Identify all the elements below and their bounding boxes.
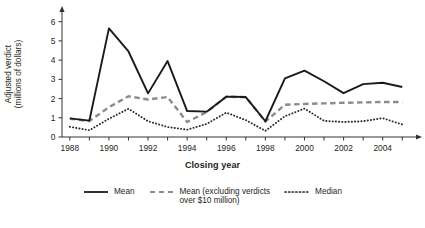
legend-label-median: Median [315, 186, 342, 196]
x-tick-label: 2000 [295, 143, 314, 153]
y-tick-label: 1 [51, 113, 56, 123]
x-tick-label: 1996 [217, 143, 236, 153]
x-axis-label: Closing year [0, 160, 425, 170]
legend-item-mean: Mean [83, 186, 134, 197]
y-tick-label: 4 [51, 55, 56, 65]
x-tick-label: 1998 [256, 143, 275, 153]
series-line-dashed [70, 96, 402, 122]
x-tick-label: 1990 [100, 143, 119, 153]
legend-swatch-dashed-icon [149, 187, 175, 197]
y-tick-label: 0 [51, 132, 56, 142]
y-axis-arrow-icon [59, 6, 64, 12]
y-tick-label: 6 [51, 17, 56, 27]
x-tick-label: 1994 [178, 143, 197, 153]
legend-swatch-solid-icon [83, 187, 109, 197]
y-tick-label: 3 [51, 74, 56, 84]
x-tick-label: 2002 [334, 143, 353, 153]
legend-label-mean-excluding: Mean (excluding verdicts over $10 millio… [180, 186, 271, 206]
legend-item-median: Median [284, 186, 342, 197]
legend-label-mean: Mean [114, 186, 134, 196]
y-tick-label: 5 [51, 36, 56, 46]
chart-figure: Adjusted verdict (millions of dollars) 0… [0, 0, 425, 228]
chart-legend: Mean Mean (excluding verdicts over $10 m… [0, 186, 425, 206]
series-line-dotted [70, 109, 402, 131]
series-line-solid [70, 28, 402, 121]
x-tick-label: 1992 [139, 143, 158, 153]
legend-item-mean-excluding: Mean (excluding verdicts over $10 millio… [149, 186, 271, 206]
plot-area: 0123456198819901992199419961998200020022… [0, 0, 425, 160]
x-tick-label: 2004 [373, 143, 392, 153]
x-axis-arrow-icon [416, 134, 422, 139]
legend-swatch-dotted-icon [284, 187, 310, 197]
x-tick-label: 1988 [61, 143, 80, 153]
y-tick-label: 2 [51, 94, 56, 104]
